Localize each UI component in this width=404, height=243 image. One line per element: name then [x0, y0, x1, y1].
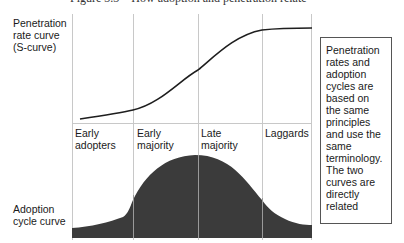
- phase-line: adopters: [75, 139, 116, 151]
- phase-line: Early: [137, 127, 174, 139]
- adoption-curve-label: Adoption cycle curve: [13, 203, 66, 227]
- phase-early-majority: Early majority: [137, 127, 174, 151]
- label-line: rate curve: [13, 29, 67, 41]
- phase-line: Late: [201, 127, 238, 139]
- label-line: cycle curve: [13, 215, 66, 227]
- phase-line: majority: [137, 139, 174, 151]
- phase-laggards: Laggards: [265, 127, 309, 139]
- label-line: Adoption: [13, 203, 66, 215]
- label-line: Penetration: [13, 17, 67, 29]
- phase-line: Early: [75, 127, 116, 139]
- phase-late-majority: Late majority: [201, 127, 238, 151]
- note-text: Penetration rates and adoption cycles ar…: [326, 44, 382, 212]
- label-line: (S-curve): [13, 41, 67, 53]
- explanation-note: Penetration rates and adoption cycles ar…: [320, 37, 392, 224]
- penetration-curve-label: Penetration rate curve (S-curve): [13, 17, 67, 53]
- adoption-bell-curve: [72, 155, 312, 238]
- phase-line: Laggards: [265, 127, 309, 139]
- phase-early-adopters: Early adopters: [75, 127, 116, 151]
- phase-line: majority: [201, 139, 238, 151]
- s-curve: [80, 28, 312, 119]
